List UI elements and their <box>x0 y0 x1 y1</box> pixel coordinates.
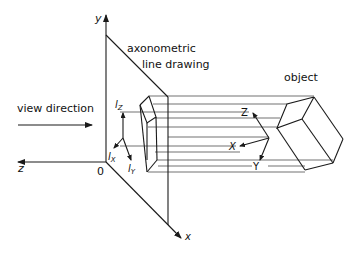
lz-label: lZ <box>115 99 123 112</box>
prism-top-face <box>140 96 156 123</box>
object-y-label: Y <box>252 161 260 172</box>
ly-vector <box>123 138 131 160</box>
prism-edge <box>156 117 157 160</box>
plane-title-line2: line drawing <box>142 58 210 71</box>
object-z-label: Z <box>241 107 248 118</box>
plane-title-line1: axonometric <box>127 42 196 55</box>
object-z-vector <box>253 113 269 138</box>
x-axis-label: x <box>184 231 191 242</box>
lx-label: lX <box>108 151 116 164</box>
object-box <box>277 97 343 170</box>
box-edge <box>277 128 305 170</box>
object-y-vector <box>260 138 269 160</box>
object-x-label: X <box>228 141 237 152</box>
x-axis <box>106 162 181 238</box>
box-edge <box>302 119 333 163</box>
projection-lines <box>120 96 333 172</box>
object-axes <box>240 113 269 160</box>
y-axis-label: y <box>94 12 102 25</box>
box-edge <box>333 139 343 163</box>
view-direction-label: view direction <box>17 102 94 115</box>
unit-vectors <box>114 113 131 160</box>
object-label: object <box>284 71 319 84</box>
ly-label: lY <box>128 163 136 176</box>
prism-edge <box>147 160 157 172</box>
z-axis-label: z <box>17 162 24 175</box>
projected-drawing <box>140 96 157 172</box>
origin-label: 0 <box>97 165 104 178</box>
box-edge <box>305 163 333 170</box>
lx-vector <box>114 138 123 148</box>
box-top-face <box>277 97 314 128</box>
box-edge <box>314 97 343 139</box>
object-x-vector <box>240 138 269 146</box>
axonometric-projection-diagram: y z x 0 axonometric line drawing view di… <box>0 0 358 259</box>
